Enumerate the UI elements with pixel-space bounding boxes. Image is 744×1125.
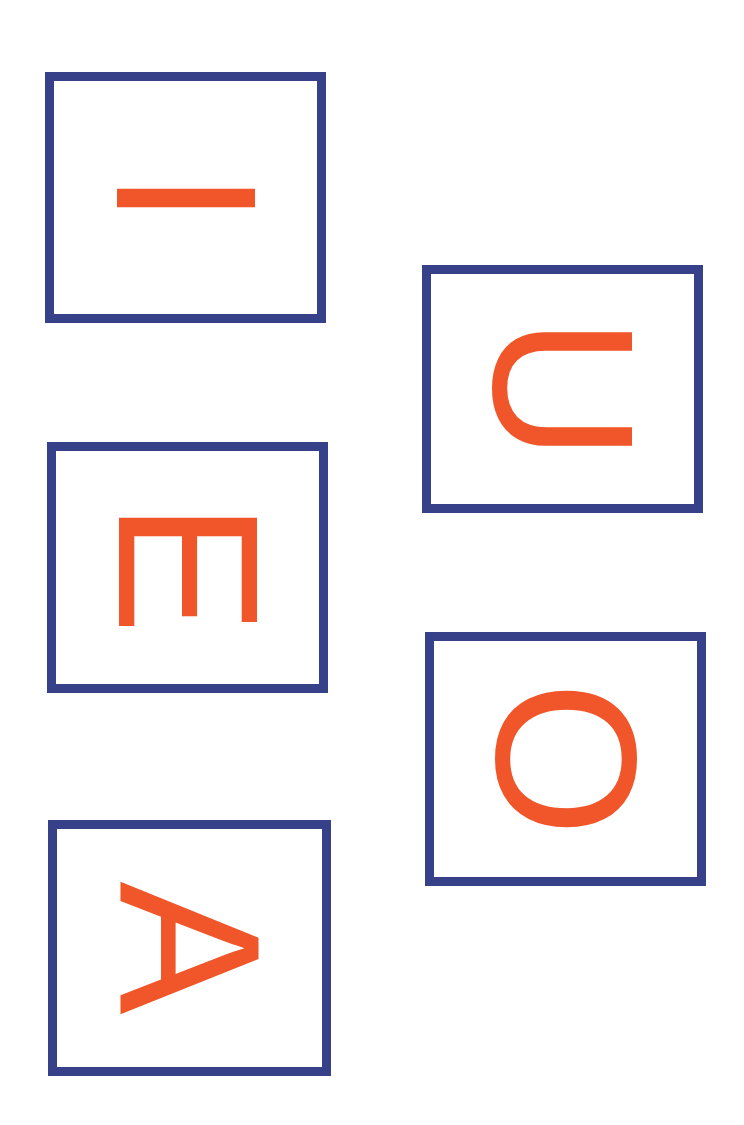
letter-u: U (463, 317, 663, 461)
card-e: E (47, 442, 328, 693)
letter-e: E (88, 501, 288, 634)
letter-i: I (86, 170, 286, 226)
letter-o: O (466, 681, 666, 837)
card-u: U (422, 265, 703, 513)
letter-a: A (90, 881, 290, 1014)
card-i: I (45, 72, 326, 323)
card-a: A (48, 820, 331, 1076)
card-o: O (425, 632, 706, 886)
